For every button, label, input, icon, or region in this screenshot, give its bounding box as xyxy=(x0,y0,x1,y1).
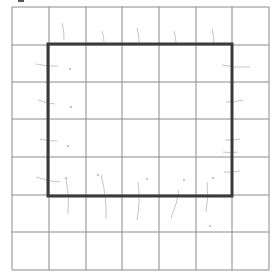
pencil-stroke xyxy=(62,23,64,40)
pencil-dot xyxy=(65,177,67,179)
outlined-rectangle xyxy=(48,44,232,196)
grid-sheet xyxy=(0,0,279,277)
pencil-dot xyxy=(69,68,71,70)
pencil-stroke xyxy=(212,29,214,44)
pencil-stroke xyxy=(137,182,139,220)
pencil-stroke xyxy=(137,28,139,42)
grid-lines xyxy=(12,7,269,270)
pencil-dot xyxy=(209,225,211,227)
pencil-stroke xyxy=(222,65,250,67)
pencil-dot xyxy=(212,177,214,179)
pencil-dot xyxy=(67,145,69,147)
pencil-dot xyxy=(70,106,72,108)
grid-canvas xyxy=(0,0,279,277)
pencil-dot xyxy=(183,179,185,181)
pencil-stroke xyxy=(226,100,243,102)
pencil-stroke xyxy=(174,31,176,44)
pencil-dot xyxy=(146,178,148,180)
pencil-stroke xyxy=(102,31,104,42)
cropped-label-fragment xyxy=(18,0,24,2)
pencil-stroke xyxy=(171,190,179,218)
pencil-dot xyxy=(97,174,99,176)
